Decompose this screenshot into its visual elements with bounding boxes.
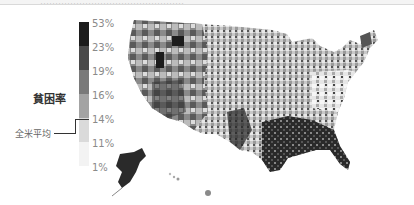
average-leader-line-vertical (75, 119, 76, 134)
us-poverty-choropleth-map (112, 12, 414, 205)
legend-band-6 (79, 142, 89, 166)
legend-tick-14: 14% (92, 115, 114, 125)
legend-tick-19: 19% (92, 67, 114, 77)
average-marker-line (75, 119, 89, 120)
legend-band-4 (79, 94, 89, 118)
legend-band-5 (79, 118, 89, 142)
legend-band-3 (79, 70, 89, 94)
hawaii-or-caribbean-island (205, 190, 211, 196)
average-leader-line (54, 133, 75, 134)
legend-tick-11: 11% (92, 139, 114, 149)
legend-tick-53: 53% (92, 19, 114, 29)
cropped-header-strip: ………………………………………… (0, 0, 414, 5)
legend-band-2 (79, 46, 89, 70)
legend-title: 貧困率 (33, 90, 66, 106)
legend-tick-23: 23% (92, 43, 114, 53)
legend-color-scale (79, 22, 89, 166)
alaska (112, 148, 146, 196)
hawaii (169, 173, 180, 181)
legend-band-1 (79, 22, 89, 46)
cropped-caption: ………………………………………… (40, 0, 184, 6)
national-average-label: 全米平均 (15, 127, 51, 140)
legend-tick-16: 16% (92, 91, 114, 101)
legend-tick-1: 1% (92, 163, 108, 173)
contiguous-us (128, 20, 378, 172)
